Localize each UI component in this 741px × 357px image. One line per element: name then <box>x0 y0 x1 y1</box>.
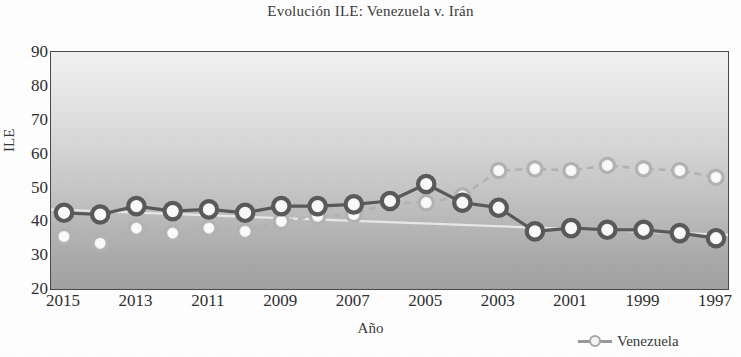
data-point-core <box>675 229 684 238</box>
data-point-core <box>277 217 286 226</box>
series-irán <box>56 176 724 247</box>
data-point-core <box>60 232 69 241</box>
y-axis-tick-labels: 90 80 70 60 50 40 30 20 <box>0 0 48 300</box>
x-tick-label: 2005 <box>395 292 455 309</box>
data-point-core <box>277 202 286 211</box>
legend-marker-icon <box>578 335 612 348</box>
data-point-core <box>494 203 503 212</box>
data-point-core <box>675 166 684 175</box>
data-point-core <box>168 207 177 216</box>
y-tick-label: 50 <box>8 179 48 196</box>
data-point-core <box>422 179 431 188</box>
x-tick-label: 2001 <box>540 292 600 309</box>
data-point-core <box>168 229 177 238</box>
data-point-core <box>494 166 503 175</box>
x-tick-label: 2013 <box>105 292 165 309</box>
y-tick-label: 60 <box>8 145 48 162</box>
y-tick-label: 70 <box>8 111 48 128</box>
data-point-core <box>385 196 394 205</box>
y-tick-label: 90 <box>8 43 48 60</box>
chart-legend: Venezuela <box>578 333 679 350</box>
data-point-core <box>59 208 68 217</box>
data-point-core <box>96 239 105 248</box>
data-point-core <box>567 166 576 175</box>
x-tick-label: 2011 <box>178 292 238 309</box>
plot-area <box>50 51 729 290</box>
data-point-core <box>204 205 213 214</box>
data-point-core <box>422 198 431 207</box>
chart-title: Evolución ILE: Venezuela v. Irán <box>0 3 741 20</box>
data-point-core <box>531 164 540 173</box>
legend-label-venezuela: Venezuela <box>617 333 679 350</box>
x-tick-label: 1999 <box>613 292 673 309</box>
data-point-core <box>205 224 214 233</box>
y-tick-label: 30 <box>8 246 48 263</box>
x-tick-label: 2007 <box>323 292 383 309</box>
data-point-core <box>241 227 250 236</box>
data-point-core <box>711 234 720 243</box>
y-tick-label: 80 <box>8 77 48 94</box>
series-plot <box>51 52 728 289</box>
data-point-core <box>530 227 539 236</box>
data-point-core <box>132 224 141 233</box>
y-tick-label: 40 <box>8 212 48 229</box>
data-point-core <box>349 200 358 209</box>
data-point-core <box>639 225 648 234</box>
data-point-core <box>603 161 612 170</box>
chart-container: Evolución ILE: Venezuela v. Irán ILE 90 … <box>0 0 741 357</box>
data-point-core <box>639 164 648 173</box>
x-tick-label: 1997 <box>685 292 741 309</box>
data-point-core <box>313 202 322 211</box>
x-tick-label: 2003 <box>468 292 528 309</box>
data-point-core <box>96 210 105 219</box>
x-tick-label: 2009 <box>250 292 310 309</box>
data-point-core <box>603 225 612 234</box>
data-point-core <box>567 224 576 233</box>
data-point-core <box>241 208 250 217</box>
x-tick-label: 2015 <box>33 292 93 309</box>
data-point-core <box>712 173 721 182</box>
data-point-core <box>458 198 467 207</box>
data-point-core <box>132 202 141 211</box>
